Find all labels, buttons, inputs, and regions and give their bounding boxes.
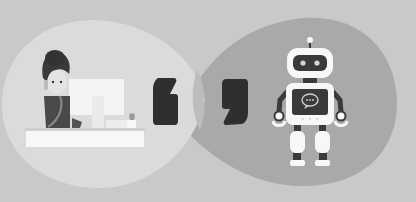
robot-hip-right	[319, 125, 326, 131]
robot-hip-left	[294, 125, 301, 131]
robot-leg-left	[290, 131, 305, 153]
plant-pot	[127, 120, 136, 128]
robot-button	[316, 118, 318, 120]
desk-top	[25, 128, 145, 131]
robot-eye-left	[300, 60, 305, 65]
agent-hair-bun	[45, 50, 65, 66]
robot-ankle-left	[293, 153, 301, 160]
robot-screen	[292, 89, 328, 115]
desk	[26, 131, 144, 147]
closing-quote-icon	[222, 79, 248, 125]
robot-neck	[303, 78, 317, 83]
robot-antenna-tip	[307, 37, 313, 43]
agent-eye-left	[52, 81, 54, 83]
scene-svg	[0, 0, 416, 202]
robot-button	[309, 118, 311, 120]
headset-icon	[44, 80, 48, 90]
robot-foot-left	[290, 160, 305, 166]
illustration	[0, 0, 416, 202]
agent-body	[44, 96, 70, 128]
robot-button	[302, 118, 304, 120]
agent-face	[47, 70, 67, 94]
robot-eye-right	[314, 60, 319, 65]
robot-foot-right	[315, 160, 330, 166]
robot-hand-right	[337, 112, 346, 121]
robot-ankle-right	[319, 153, 327, 160]
plant-icon	[129, 113, 135, 120]
robot-hand-left	[275, 112, 284, 121]
opening-quote-icon	[153, 78, 178, 125]
robot-leg-right	[315, 131, 330, 153]
monitor-stand	[92, 96, 104, 128]
robot-visor	[293, 55, 327, 71]
agent-eye-right	[60, 81, 62, 83]
